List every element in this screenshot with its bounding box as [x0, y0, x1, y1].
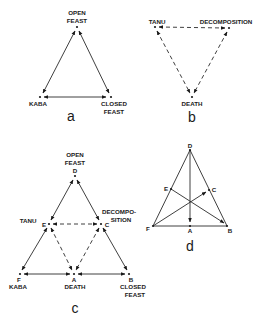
node-c-name-1: DECOMPO-	[102, 208, 136, 215]
node-c-letter: C	[105, 221, 110, 228]
node-kaba-point	[39, 96, 41, 98]
panel-b: TANU DECOMPOSITION DEATH b	[149, 18, 253, 125]
node-f-point	[152, 225, 154, 227]
edge-tanu-death	[157, 31, 190, 93]
node-death-point	[191, 96, 193, 98]
node-f-letter: F	[17, 276, 21, 283]
node-d-name-1: OPEN	[66, 151, 84, 158]
node-b-name-2: FEAST	[125, 291, 146, 298]
edge-e-b	[171, 189, 224, 223]
node-open-feast-label-2: FEAST	[67, 17, 88, 24]
edge-e-f	[22, 228, 47, 270]
edge-e-a	[51, 228, 72, 270]
node-e-letter: E	[42, 221, 46, 228]
edge-tanu-decomposition	[159, 27, 225, 28]
figure-canvas: OPEN FEAST KABA CLOSED FEAST a TANU DECO…	[0, 0, 263, 327]
node-e-point	[48, 223, 50, 225]
node-tanu-point	[154, 26, 156, 28]
node-closed-feast-label-2: FEAST	[104, 108, 125, 115]
node-c-letter: C	[212, 186, 217, 193]
node-a-letter: A	[72, 276, 77, 283]
node-d-point	[189, 149, 191, 151]
edge-decomposition-death	[194, 32, 227, 93]
panel-c: D E C F A B OPEN FEAST TANU DECOMPO- SIT…	[9, 151, 146, 316]
node-a-name: DEATH	[65, 283, 86, 290]
node-tanu-label: TANU	[149, 18, 166, 25]
node-e-letter: E	[164, 185, 168, 192]
panel-a-caption: a	[67, 108, 75, 124]
node-open-feast-point	[76, 26, 78, 28]
edge-open-feast-closed-feast	[79, 31, 109, 93]
edge-d-c	[77, 180, 99, 220]
node-e-point	[170, 188, 172, 190]
panel-d-caption: d	[186, 238, 194, 254]
node-c-point	[208, 189, 210, 191]
node-a-point	[73, 273, 75, 275]
node-c-point	[100, 223, 102, 225]
node-b-name-1: CLOSED	[120, 283, 146, 290]
panel-c-caption: c	[72, 300, 79, 316]
node-closed-feast-label-1: CLOSED	[101, 100, 127, 107]
node-closed-feast-point	[110, 96, 112, 98]
panel-d: D E C F A B d	[146, 142, 233, 254]
node-open-feast-label-1: OPEN	[68, 9, 86, 16]
node-f-letter: F	[146, 225, 150, 232]
node-d-name-2: FEAST	[65, 159, 86, 166]
node-b-letter: B	[129, 276, 134, 283]
node-death-label: DEATH	[182, 100, 203, 107]
node-d-letter: D	[73, 167, 78, 174]
node-d-point	[74, 175, 76, 177]
edge-d-b	[190, 150, 227, 226]
node-b-letter: B	[228, 227, 233, 234]
node-kaba-label: KABA	[29, 100, 47, 107]
panel-a: OPEN FEAST KABA CLOSED FEAST a	[29, 9, 127, 124]
edge-kaba-open-feast	[43, 31, 75, 93]
edge-c-b	[103, 228, 127, 270]
node-f-name: KABA	[9, 283, 27, 290]
node-d-letter: D	[188, 142, 193, 149]
node-b-point	[128, 273, 130, 275]
edge-c-a	[76, 228, 99, 270]
node-decomposition-label: DECOMPOSITION	[200, 18, 253, 25]
node-e-name: TANU	[20, 217, 37, 224]
node-c-name-2: SITION	[111, 216, 132, 223]
panel-b-caption: b	[188, 109, 196, 125]
edge-d-e	[51, 180, 73, 220]
node-f-point	[19, 273, 21, 275]
node-a-letter: A	[188, 227, 193, 234]
node-decomposition-point	[228, 27, 230, 29]
